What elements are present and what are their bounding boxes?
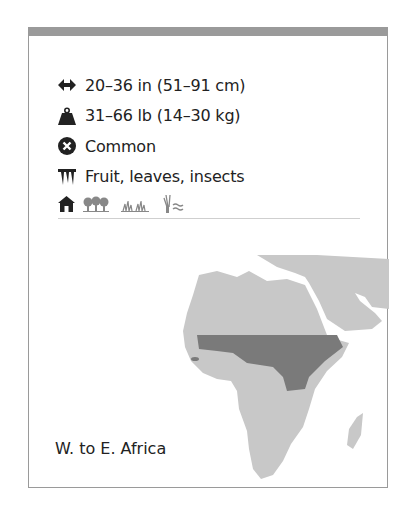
habitat-icons (58, 192, 378, 220)
stat-diet: Fruit, leaves, insects (58, 162, 378, 193)
stat-status: Common (58, 131, 378, 162)
weight-text: 31–66 lb (14–30 kg) (85, 106, 240, 125)
grassland-icon (121, 197, 149, 216)
house-icon (58, 196, 75, 216)
forest-icon (83, 196, 109, 216)
madagascar-landmass (347, 413, 363, 449)
status-x-icon (58, 137, 76, 155)
diet-text: Fruit, leaves, insects (85, 167, 244, 186)
wetland-icon (163, 195, 185, 217)
length-text: 20–36 in (51–91 cm) (85, 76, 245, 95)
status-text: Common (85, 137, 156, 156)
stat-weight: 31–66 lb (14–30 kg) (58, 101, 378, 132)
length-arrows-icon (58, 76, 76, 94)
weight-icon (58, 107, 76, 125)
region-label: W. to E. Africa (55, 439, 166, 458)
card-header-bar (29, 27, 387, 36)
stats-list: 20–36 in (51–91 cm) 31–66 lb (14–30 kg) … (58, 70, 378, 220)
range-map (177, 239, 397, 505)
divider (58, 218, 360, 219)
stat-length: 20–36 in (51–91 cm) (58, 70, 378, 101)
diet-teeth-icon (58, 168, 76, 186)
species-card: 20–36 in (51–91 cm) 31–66 lb (14–30 kg) … (28, 27, 388, 488)
